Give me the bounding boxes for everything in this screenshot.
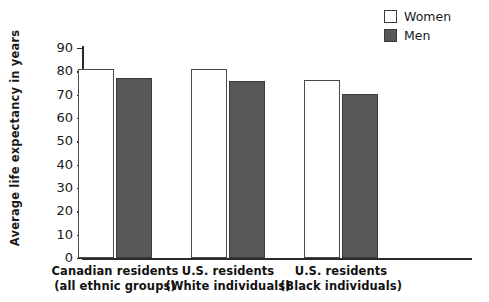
- plot-area: 9080706050403020100: [82, 40, 472, 259]
- group-label-3: U.S. residents(Black individuals): [256, 264, 426, 293]
- x-axis-line: [82, 258, 472, 260]
- y-axis-title: Average life expectancy in years: [4, 8, 26, 268]
- y-tick-label-50: 50: [39, 132, 73, 149]
- legend-item-women: Women: [384, 8, 484, 25]
- bar-women-group-1: [78, 69, 114, 258]
- group-label-3-line-1: U.S. residents: [256, 264, 426, 279]
- bar-chart-figure: Women Men Average life expectancy in yea…: [0, 0, 489, 302]
- bar-women-group-2: [191, 69, 227, 258]
- y-tick-label-40: 40: [39, 156, 73, 173]
- y-tick-label-90: 90: [39, 39, 73, 56]
- y-tick-90: 90: [77, 48, 83, 49]
- bar-men-group-3: [342, 94, 378, 259]
- y-tick-0: 0: [77, 258, 83, 259]
- y-tick-label-60: 60: [39, 109, 73, 126]
- y-tick-label-10: 10: [39, 226, 73, 243]
- bar-women-group-3: [304, 80, 340, 259]
- bar-men-group-2: [229, 81, 265, 258]
- y-tick-label-70: 70: [39, 86, 73, 103]
- legend-label-women: Women: [404, 10, 451, 23]
- women-swatch-icon: [384, 10, 397, 23]
- y-tick-label-20: 20: [39, 202, 73, 219]
- bar-men-group-1: [116, 78, 152, 258]
- y-tick-label-30: 30: [39, 179, 73, 196]
- y-tick-label-80: 80: [39, 62, 73, 79]
- group-label-3-line-2: (Black individuals): [256, 279, 426, 294]
